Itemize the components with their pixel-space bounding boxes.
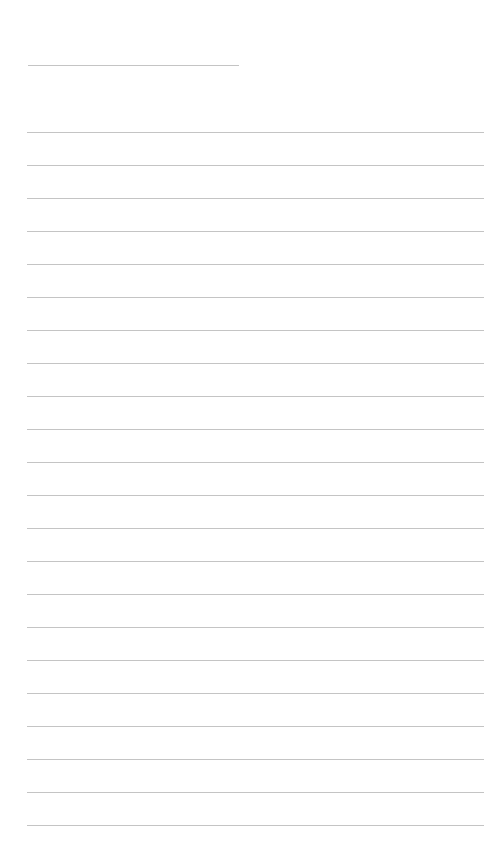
writing-line xyxy=(27,726,484,727)
writing-line xyxy=(27,198,484,199)
writing-line xyxy=(27,429,484,430)
writing-line xyxy=(27,561,484,562)
writing-line xyxy=(27,759,484,760)
writing-line xyxy=(27,330,484,331)
writing-line xyxy=(27,165,484,166)
writing-line xyxy=(27,495,484,496)
writing-line xyxy=(27,264,484,265)
writing-line xyxy=(27,462,484,463)
writing-line xyxy=(27,693,484,694)
writing-line xyxy=(27,396,484,397)
writing-line xyxy=(27,594,484,595)
writing-line xyxy=(27,132,484,133)
writing-line xyxy=(27,660,484,661)
writing-line xyxy=(27,231,484,232)
writing-line xyxy=(27,627,484,628)
writing-line xyxy=(27,825,484,826)
writing-line xyxy=(27,792,484,793)
writing-line xyxy=(27,297,484,298)
name-header-line xyxy=(28,65,239,66)
writing-line xyxy=(27,363,484,364)
writing-line xyxy=(27,528,484,529)
